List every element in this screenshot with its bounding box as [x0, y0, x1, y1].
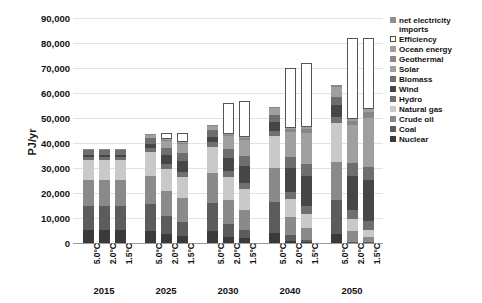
bar-segment	[331, 123, 342, 162]
bar	[331, 85, 342, 243]
x-axis-scenario-label: 1.5°C	[372, 243, 382, 264]
bars-layer	[73, 18, 383, 243]
legend-item: Crude oil	[390, 115, 482, 124]
bar-segment	[239, 140, 250, 156]
legend-swatch-icon	[390, 136, 396, 142]
bar-segment	[115, 157, 126, 161]
bar-segment	[301, 63, 312, 128]
legend-item: Geothermal	[390, 55, 482, 64]
bar-segment	[207, 130, 218, 137]
legend-swatch-icon	[390, 66, 396, 72]
bar-segment	[115, 160, 126, 180]
x-axis-year-label: 2050	[323, 285, 382, 296]
legend-item-label: Ocean energy	[399, 45, 452, 54]
x-axis-labels: 5.0°C2.0°C1.5°C20155.0°C2.0°C1.5°C20255.…	[73, 243, 383, 303]
bar-segment	[363, 167, 374, 181]
legend-item: Nuclear	[390, 135, 482, 144]
legend-swatch-icon	[390, 46, 396, 52]
bar-segment	[161, 148, 172, 156]
bar-segment	[239, 189, 250, 210]
bar-segment	[331, 87, 342, 97]
bar-segment	[115, 149, 126, 150]
bar-segment	[301, 214, 312, 228]
legend-swatch-icon	[390, 56, 396, 62]
bar-segment	[145, 138, 156, 144]
bar-segment	[223, 158, 234, 172]
bar-segment	[363, 237, 374, 243]
bar-segment	[207, 203, 218, 231]
bar-segment	[285, 199, 296, 218]
bar-segment	[331, 105, 342, 117]
y-axis-tick-label: 50,000	[18, 113, 70, 124]
bar-segment	[301, 240, 312, 242]
x-axis-scenario-label: 5.0°C	[216, 243, 226, 264]
bar-segment	[223, 171, 234, 177]
bar-segment	[269, 136, 280, 168]
bar-segment	[239, 156, 250, 166]
bar-segment	[223, 149, 234, 158]
bar-segment	[99, 157, 110, 161]
bar-segment	[161, 191, 172, 217]
legend-item-label: Wind	[399, 85, 418, 94]
bar	[145, 134, 156, 243]
bar-segment	[177, 161, 188, 172]
bar-segment	[301, 206, 312, 214]
legend-swatch-icon	[390, 17, 396, 23]
bar-segment	[145, 135, 156, 138]
bar-segment	[347, 125, 358, 163]
x-axis-scenario-label: 5.0°C	[92, 243, 102, 264]
bar-segment	[269, 108, 280, 115]
bar-segment	[223, 224, 234, 237]
legend-item: Efficiency	[390, 35, 482, 44]
bar-segment	[223, 134, 234, 135]
bar-segment	[269, 131, 280, 137]
bar-segment	[269, 107, 280, 109]
bar-segment	[177, 153, 188, 161]
bar-segment	[207, 147, 218, 173]
legend-swatch-icon	[390, 106, 396, 112]
y-axis-tick-label: 90,000	[18, 13, 70, 24]
bar-segment	[239, 137, 250, 138]
bar	[239, 101, 250, 244]
bar-segment	[285, 217, 296, 235]
legend-item: Solar	[390, 65, 482, 74]
bar-segment	[115, 149, 126, 150]
x-axis-scenario-label: 1.5°C	[248, 243, 258, 264]
bar-segment	[99, 160, 110, 180]
y-axis-tick-label: 0	[18, 238, 70, 249]
bar-segment	[115, 155, 126, 157]
legend-item-label: Biomass	[399, 75, 432, 84]
legend-item-label: Hydro	[399, 95, 422, 104]
bar-segment	[83, 149, 94, 150]
stacked-bar-chart: PJ/yr 90,00080,00070,00060,00050,00040,0…	[0, 0, 482, 303]
x-axis-scenario-label: 1.5°C	[186, 243, 196, 264]
bar-segment	[363, 38, 374, 109]
legend-item: Wind	[390, 85, 482, 94]
x-axis-scenario-label: 2.0°C	[356, 243, 366, 264]
x-axis-scenario-label: 2.0°C	[108, 243, 118, 264]
x-axis-scenario-label: 2.0°C	[232, 243, 242, 264]
bar-segment	[177, 133, 188, 142]
bar-segment	[223, 136, 234, 149]
bar-segment	[239, 230, 250, 238]
bar-segment	[115, 230, 126, 243]
bar-segment	[145, 144, 156, 148]
bar-segment	[285, 192, 296, 199]
bar-segment	[347, 38, 358, 119]
bar-segment	[347, 119, 358, 121]
bar-segment	[223, 200, 234, 224]
bar-segment	[177, 177, 188, 198]
bar-segment	[145, 152, 156, 176]
bar	[301, 63, 312, 244]
bar-segment	[145, 176, 156, 205]
bar-segment	[347, 176, 358, 211]
bar-segment	[285, 132, 296, 157]
bar-segment	[99, 149, 110, 150]
bar-segment	[223, 103, 234, 134]
x-axis-scenario-label: 5.0°C	[154, 243, 164, 264]
bar-segment	[347, 231, 358, 242]
bar-segment	[331, 117, 342, 123]
x-axis-year-label: 2015	[75, 285, 134, 296]
bar-segment	[331, 97, 342, 106]
legend-item-label: Coal	[399, 125, 416, 134]
